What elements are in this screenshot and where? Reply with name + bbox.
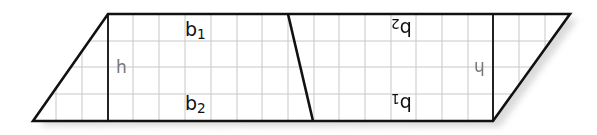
label-base-letter: b xyxy=(185,92,197,114)
parallelogram-diagram: b1 b2 h b2 b1 h xyxy=(0,0,597,135)
label-base-letter: b xyxy=(400,93,412,115)
label-b1-left: b1 xyxy=(185,20,206,42)
diagram-canvas xyxy=(0,0,597,135)
label-subscript: 2 xyxy=(197,100,206,116)
label-b1-right-rotated: b1 xyxy=(391,91,412,113)
label-b2-left: b2 xyxy=(185,94,206,116)
label-h-right-rotated: h xyxy=(474,59,485,76)
label-base-letter: b xyxy=(185,18,197,40)
label-base-letter: b xyxy=(400,18,412,40)
label-subscript: 1 xyxy=(391,91,400,107)
label-subscript: 2 xyxy=(391,16,400,32)
label-subscript: 1 xyxy=(197,26,206,42)
label-h-left: h xyxy=(116,59,127,76)
label-b2-right-rotated: b2 xyxy=(391,16,412,38)
label-height: h xyxy=(116,57,127,77)
label-height: h xyxy=(474,58,485,78)
